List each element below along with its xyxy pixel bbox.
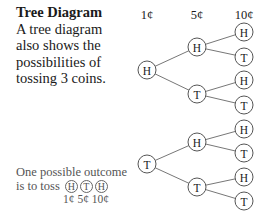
svg-text:H: H [143, 65, 151, 77]
outcome-coin-1: H [65, 180, 78, 193]
svg-text:T: T [240, 52, 247, 64]
node-h-h-t: T [235, 48, 253, 66]
header-10c: 10¢ [235, 8, 254, 22]
svg-text:H: H [240, 75, 248, 87]
svg-text:H: H [193, 42, 201, 54]
svg-text:T: T [240, 100, 247, 112]
outcome-coin-2: T [80, 180, 93, 193]
node-root-t: T [138, 155, 156, 173]
node-h-h: H [188, 38, 206, 56]
node-t-h: H [188, 133, 206, 151]
svg-text:T: T [240, 148, 247, 160]
svg-text:T: T [193, 182, 200, 194]
edges [147, 32, 244, 201]
outcome-caption: One possible outcome is to toss HTH 1¢ 5… [16, 166, 127, 207]
node-t-t-t: T [235, 192, 253, 210]
outcome-prefix: is to toss [16, 179, 60, 193]
node-t-h-h: H [235, 120, 253, 138]
node-t-h-t: T [235, 144, 253, 162]
svg-text:T: T [143, 159, 150, 171]
svg-text:H: H [240, 27, 248, 39]
svg-text:H: H [240, 124, 248, 136]
header-1c: 1¢ [141, 8, 154, 22]
outcome-line1: One possible outcome [16, 166, 127, 180]
node-t-t: T [188, 178, 206, 196]
node-h-t: T [188, 85, 206, 103]
node-t-t-h: H [235, 168, 253, 186]
node-h-t-h: H [235, 71, 253, 89]
node-h-t-t: T [235, 96, 253, 114]
node-root-h: H [138, 61, 156, 79]
svg-text:H: H [240, 172, 248, 184]
svg-text:T: T [193, 89, 200, 101]
outcome-coin-3: H [95, 180, 108, 193]
outcome-coin-labels: 1¢ 5¢ 10¢ [16, 193, 127, 207]
svg-text:T: T [240, 196, 247, 208]
node-h-h-h: H [235, 23, 253, 41]
header-5c: 5¢ [191, 8, 204, 22]
outcome-line2: is to toss HTH [16, 180, 127, 194]
svg-text:H: H [193, 137, 201, 149]
